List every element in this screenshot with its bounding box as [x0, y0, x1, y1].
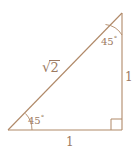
triangle-svg: [0, 0, 135, 153]
right-angle-marker-icon: [111, 119, 122, 130]
horizontal-leg-label: 1: [66, 136, 74, 148]
angle-label-bottom: 45°: [28, 115, 44, 126]
degree-symbol-top: °: [114, 35, 118, 43]
angle-arc-top-icon: [106, 25, 123, 36]
angle-top-value: 45: [101, 36, 114, 47]
degree-symbol-bottom: °: [41, 114, 45, 122]
hypotenuse-line: [8, 13, 122, 130]
hypotenuse-label: √2: [42, 60, 60, 74]
angle-bottom-value: 45: [28, 115, 41, 126]
radicand-value: 2: [49, 60, 59, 74]
angle-label-top: 45°: [101, 36, 117, 47]
geometry-figure: √2 1 1 45° 45°: [0, 0, 135, 153]
vertical-leg-label: 1: [125, 71, 133, 83]
